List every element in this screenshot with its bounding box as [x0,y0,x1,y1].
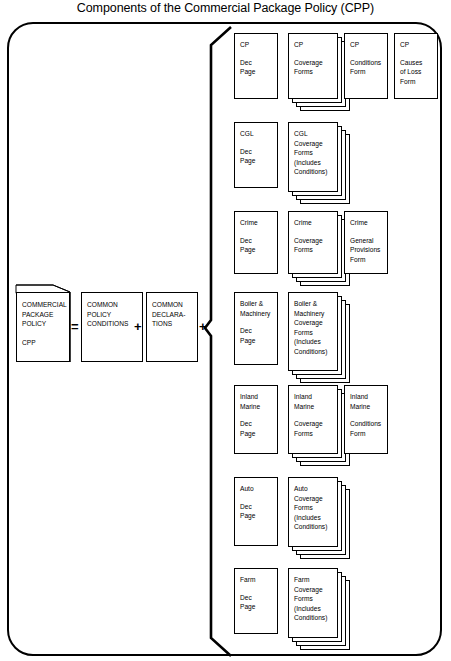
large-brace-icon [205,27,231,656]
brace-overlay [0,0,451,661]
diagram-canvas: Components of the Commercial Package Pol… [0,0,451,661]
